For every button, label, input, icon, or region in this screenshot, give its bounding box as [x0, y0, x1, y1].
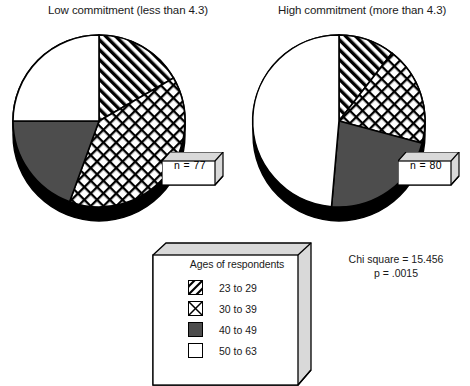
pie-title-high-commitment: High commitment (more than 4.3) — [278, 4, 446, 16]
legend-title: Ages of respondents — [174, 258, 300, 270]
pie-title-low-commitment: Low commitment (less than 4.3) — [48, 4, 208, 16]
swatch-solid-gray-icon — [188, 322, 203, 337]
legend-label-30-to-39: 30 to 39 — [219, 303, 257, 315]
sample-size-label-high: n = 80 — [410, 159, 442, 171]
p-value: p = .0015 — [330, 266, 462, 280]
legend-item-23-to-29: 23 to 29 — [188, 277, 300, 298]
statistics-annotation: Chi square = 15.456 p = .0015 — [330, 252, 462, 280]
sample-size-callout-low: n = 77 — [162, 152, 224, 186]
legend-item-30-to-39: 30 to 39 — [188, 298, 300, 319]
legend-item-50-to-63: 50 to 63 — [188, 340, 300, 361]
legend-box: Ages of respondents 23 to 29 — [152, 242, 312, 386]
legend-item-40-to-49: 40 to 49 — [188, 319, 300, 340]
swatch-cross-hatch-icon — [188, 301, 203, 316]
legend-label-40-to-49: 40 to 49 — [219, 324, 257, 336]
chi-square-value: Chi square = 15.456 — [330, 252, 462, 266]
legend-label-23-to-29: 23 to 29 — [219, 282, 257, 294]
swatch-diagonal-hatch-icon — [188, 280, 203, 295]
figure-canvas: Low commitment (less than 4.3) High comm… — [0, 0, 470, 386]
swatch-solid-white-icon — [188, 343, 203, 358]
sample-size-label-low: n = 77 — [174, 159, 206, 171]
legend-label-50-to-63: 50 to 63 — [219, 345, 257, 357]
pie-chart-high-commitment — [248, 20, 430, 225]
pie-slice-50-to-63 — [13, 35, 99, 121]
sample-size-callout-high: n = 80 — [398, 152, 460, 186]
legend-content: Ages of respondents 23 to 29 — [174, 254, 300, 372]
pie-chart-low-commitment — [8, 20, 190, 225]
